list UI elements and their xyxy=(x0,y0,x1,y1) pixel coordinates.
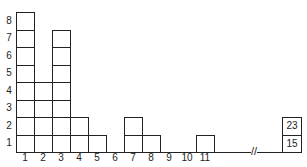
histogram-unit-cell xyxy=(16,30,35,49)
histogram-unit-cell xyxy=(196,135,215,154)
histogram-chart: 123456781234567891011//2315 xyxy=(0,0,307,167)
histogram-unit-cell xyxy=(52,135,71,154)
histogram-unit-cell xyxy=(34,82,53,101)
x-axis-line xyxy=(16,152,282,153)
x-tick-label: 10 xyxy=(178,153,196,163)
y-tick-label: 8 xyxy=(4,16,14,26)
y-tick-label: 6 xyxy=(4,51,14,61)
histogram-unit-cell xyxy=(16,135,35,154)
histogram-unit-cell xyxy=(16,65,35,84)
histogram-unit-cell xyxy=(16,100,35,119)
histogram-unit-cell xyxy=(52,65,71,84)
y-tick-label: 5 xyxy=(4,68,14,78)
x-tick-label: 11 xyxy=(196,153,214,163)
x-tick-label: 8 xyxy=(142,153,160,163)
histogram-unit-cell xyxy=(70,117,89,136)
histogram-unit-cell xyxy=(142,135,161,154)
histogram-unit-cell xyxy=(52,82,71,101)
x-tick-label: 5 xyxy=(88,153,106,163)
x-tick-label: 9 xyxy=(160,153,178,163)
histogram-unit-cell xyxy=(52,117,71,136)
histogram-unit-cell xyxy=(16,117,35,136)
y-tick-label: 3 xyxy=(4,103,14,113)
histogram-unit-cell xyxy=(16,82,35,101)
histogram-unit-cell xyxy=(16,47,35,66)
histogram-unit-cell xyxy=(124,135,143,154)
x-tick-label: 1 xyxy=(16,153,34,163)
y-tick-label: 2 xyxy=(4,121,14,131)
histogram-unit-cell xyxy=(124,117,143,136)
outlier-value-cell: 15 xyxy=(282,135,302,154)
histogram-unit-cell xyxy=(70,135,89,154)
histogram-unit-cell xyxy=(34,135,53,154)
x-tick-label: 3 xyxy=(52,153,70,163)
histogram-unit-cell xyxy=(52,47,71,66)
histogram-unit-cell xyxy=(34,117,53,136)
x-tick-label: 4 xyxy=(70,153,88,163)
y-tick-label: 1 xyxy=(4,138,14,148)
y-tick-label: 4 xyxy=(4,86,14,96)
histogram-unit-cell xyxy=(52,100,71,119)
x-tick-label: 2 xyxy=(34,153,52,163)
histogram-unit-cell xyxy=(88,135,107,154)
histogram-unit-cell xyxy=(34,100,53,119)
histogram-unit-cell xyxy=(16,12,35,31)
x-tick-label: 6 xyxy=(106,153,124,163)
histogram-unit-cell xyxy=(52,30,71,49)
y-tick-label: 7 xyxy=(4,33,14,43)
axis-break-mark: // xyxy=(251,145,257,157)
x-tick-label: 7 xyxy=(124,153,142,163)
outlier-value-cell: 23 xyxy=(282,117,302,136)
